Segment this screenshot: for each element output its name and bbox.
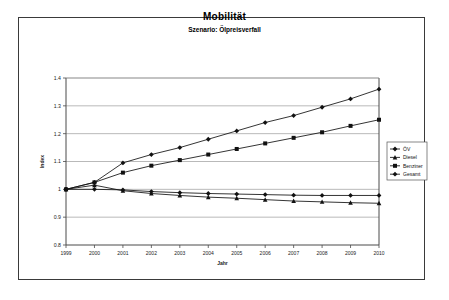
series-marker-3-11: [377, 193, 382, 198]
x-tick-label: 2010: [373, 250, 384, 256]
series-marker-0-11: [377, 87, 382, 92]
series-marker-3-9: [320, 193, 325, 198]
series-line-3: [66, 189, 379, 195]
series-marker-0-8: [291, 113, 296, 118]
x-tick-label: 2004: [203, 250, 214, 256]
chart-legend: ÖVDieselBenzinerGesamt: [387, 142, 427, 180]
series-marker-3-10: [348, 193, 353, 198]
series-marker-3-1: [92, 187, 97, 192]
x-tick-label: 2002: [146, 250, 157, 256]
legend-label-3: Gesamt: [403, 171, 421, 177]
series-marker-3-7: [263, 192, 268, 197]
legend-label-2: Benziner: [403, 163, 423, 169]
series-marker-3-4: [177, 190, 182, 195]
series-marker-2-10: [349, 124, 353, 128]
series-marker-2-3: [149, 164, 153, 168]
series-marker-3-6: [234, 192, 239, 197]
series-benziner: [64, 118, 381, 192]
series-line-0: [66, 89, 379, 189]
x-tick-label: 2006: [260, 250, 271, 256]
series-marker-2-2: [121, 171, 125, 175]
x-tick-label: 2007: [288, 250, 299, 256]
series-marker-0-4: [177, 145, 182, 150]
series-marker-2-9: [320, 130, 324, 134]
series-line-2: [66, 120, 379, 190]
legend-label-1: Diesel: [403, 154, 417, 160]
y-tick-label: 0.9: [54, 214, 61, 220]
y-tick-label: 0.8: [54, 242, 61, 248]
series-marker-3-8: [291, 193, 296, 198]
chart-svg: 0.80.911.11.21.31.4199920002001200220032…: [0, 0, 449, 300]
series-marker-0-6: [234, 128, 239, 133]
x-tick-label: 2005: [231, 250, 242, 256]
y-tick-label: 1.2: [54, 131, 61, 137]
series-marker-2-11: [377, 118, 381, 122]
y-tick-label: 1.3: [54, 103, 61, 109]
series-marker-2-4: [178, 158, 182, 162]
series-marker-2-5: [206, 153, 210, 157]
x-axis-title: Jahr: [217, 260, 228, 266]
legend-label-0: ÖV: [403, 146, 411, 152]
x-tick-label: 1999: [60, 250, 71, 256]
series-marker-0-10: [348, 96, 353, 101]
series-marker-2-1: [92, 180, 96, 184]
series-marker-0-5: [206, 137, 211, 142]
y-axis-title: Index: [39, 155, 45, 168]
x-tick-label: 2009: [345, 250, 356, 256]
series-marker-2-7: [263, 141, 267, 145]
x-tick-label: 2003: [174, 250, 185, 256]
x-tick-label: 2008: [317, 250, 328, 256]
y-tick-label: 1: [58, 186, 61, 192]
y-tick-label: 1.4: [54, 75, 61, 81]
legend-marker-2: [393, 164, 397, 168]
series-marker-2-8: [292, 136, 296, 140]
series-marker-2-6: [235, 147, 239, 151]
series-öv: [64, 87, 382, 192]
series-marker-3-5: [206, 191, 211, 196]
x-tick-label: 2000: [89, 250, 100, 256]
x-tick-label: 2001: [117, 250, 128, 256]
chart-plot-area: 0.80.911.11.21.31.4199920002001200220032…: [0, 0, 449, 300]
series-marker-0-3: [149, 152, 154, 157]
y-tick-label: 1.1: [54, 158, 61, 164]
series-marker-0-7: [263, 120, 268, 125]
